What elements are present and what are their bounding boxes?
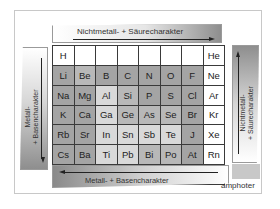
arrow-line: [65, 172, 218, 173]
element-cell-k: K: [53, 106, 74, 125]
arrow-right-icon: [209, 37, 215, 41]
element-cell-j: J: [182, 125, 203, 144]
element-cell-rn: Rn: [204, 145, 225, 164]
element-cell-c: C: [118, 66, 139, 85]
top-arrow-label: Nichtmetall- + Säurecharakter: [77, 27, 183, 36]
empty-cell: [139, 46, 160, 65]
element-cell-si: Si: [118, 86, 139, 105]
bottom-arrow-label: Metall- + Basencharakter: [85, 176, 169, 185]
arrow-down-icon: [41, 157, 45, 163]
element-cell-f: F: [182, 66, 203, 85]
right-trend-arrow: Nichtmetall- + Säurecharakter: [232, 45, 259, 163]
element-cell-ca: Ca: [75, 106, 96, 125]
element-cell-rb: Rb: [53, 125, 74, 144]
arrow-line: [73, 39, 211, 40]
element-cell-ge: Ge: [118, 106, 139, 125]
element-cell-as: As: [139, 106, 160, 125]
element-cell-ga: Ga: [96, 106, 117, 125]
element-cell-br: Br: [182, 106, 203, 125]
element-cell-pb: Pb: [118, 145, 139, 164]
element-cell-h: H: [53, 46, 74, 65]
left-arrow-label: Metall- + Basencharakter: [24, 82, 40, 152]
element-cell-na: Na: [53, 86, 74, 105]
empty-cell: [96, 46, 117, 65]
element-cell-in: In: [96, 125, 117, 144]
element-cell-sn: Sn: [118, 125, 139, 144]
arrow-line: [238, 56, 239, 154]
element-cell-n: N: [139, 66, 160, 85]
element-cell-ti: Ti: [96, 145, 117, 164]
element-cell-he: He: [204, 46, 225, 65]
left-trend-arrow: Metall- + Basencharakter: [20, 47, 48, 170]
element-cell-ar: Ar: [204, 86, 225, 105]
element-cell-s: S: [161, 86, 182, 105]
element-cell-sr: Sr: [75, 125, 96, 144]
element-cell-cs: Cs: [53, 145, 74, 164]
element-cell-xe: Xe: [204, 125, 225, 144]
element-cell-po: Po: [161, 145, 182, 164]
element-cell-p: P: [139, 86, 160, 105]
element-cell-se: Se: [161, 106, 182, 125]
periodic-table-grid: HHeLiBeBCNOFNeNaMgAlSiPSClArKCaGaGeAsSeB…: [52, 45, 225, 185]
empty-cell: [161, 46, 182, 65]
element-cell-be: Be: [75, 66, 96, 85]
empty-cell: [75, 46, 96, 65]
element-cell-al: Al: [96, 86, 117, 105]
amphoter-legend-swatch: [232, 164, 260, 179]
element-cell-mg: Mg: [75, 86, 96, 105]
element-cell-kr: Kr: [204, 106, 225, 125]
element-cell-cl: Cl: [182, 86, 203, 105]
element-cell-ba: Ba: [75, 145, 96, 164]
element-cell-at: At: [182, 145, 203, 164]
left-arrow-label-line2: + Basencharakter: [32, 82, 40, 152]
right-arrow-label-line1: Nichtmetall-: [239, 78, 247, 148]
element-cell-li: Li: [53, 66, 74, 85]
element-cell-o: O: [161, 66, 182, 85]
element-cell-te: Te: [161, 125, 182, 144]
empty-cell: [118, 46, 139, 65]
element-cell-ne: Ne: [204, 66, 225, 85]
element-cell-sb: Sb: [139, 125, 160, 144]
amphoter-legend-label: amphoter: [221, 181, 255, 190]
arrow-left-icon: [59, 170, 65, 174]
arrow-up-icon: [236, 51, 240, 57]
right-arrow-label-line2: + Säurecharakter: [247, 78, 255, 148]
empty-cell: [182, 46, 203, 65]
element-cell-b: B: [96, 66, 117, 85]
right-arrow-label: Nichtmetall- + Säurecharakter: [239, 78, 255, 148]
arrow-line: [41, 58, 42, 159]
left-arrow-label-line1: Metall-: [24, 82, 32, 152]
top-trend-arrow: Nichtmetall- + Säurecharakter: [52, 24, 222, 43]
element-cell-bi: Bi: [139, 145, 160, 164]
